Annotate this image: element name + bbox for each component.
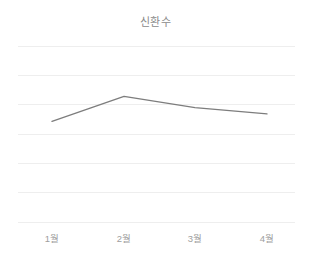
x-tick-label-3: 3월 — [175, 232, 215, 245]
data-series-line — [52, 96, 267, 121]
x-tick-label-4: 4월 — [247, 232, 287, 245]
line-chart-plot — [0, 0, 311, 265]
x-tick-label-1: 1월 — [32, 232, 72, 245]
gridlines-group — [18, 46, 295, 222]
x-tick-label-2: 2월 — [104, 232, 144, 245]
chart-card: 신환수 1월2월3월4월 — [0, 0, 311, 265]
x-axis-labels: 1월2월3월4월 — [0, 232, 311, 248]
